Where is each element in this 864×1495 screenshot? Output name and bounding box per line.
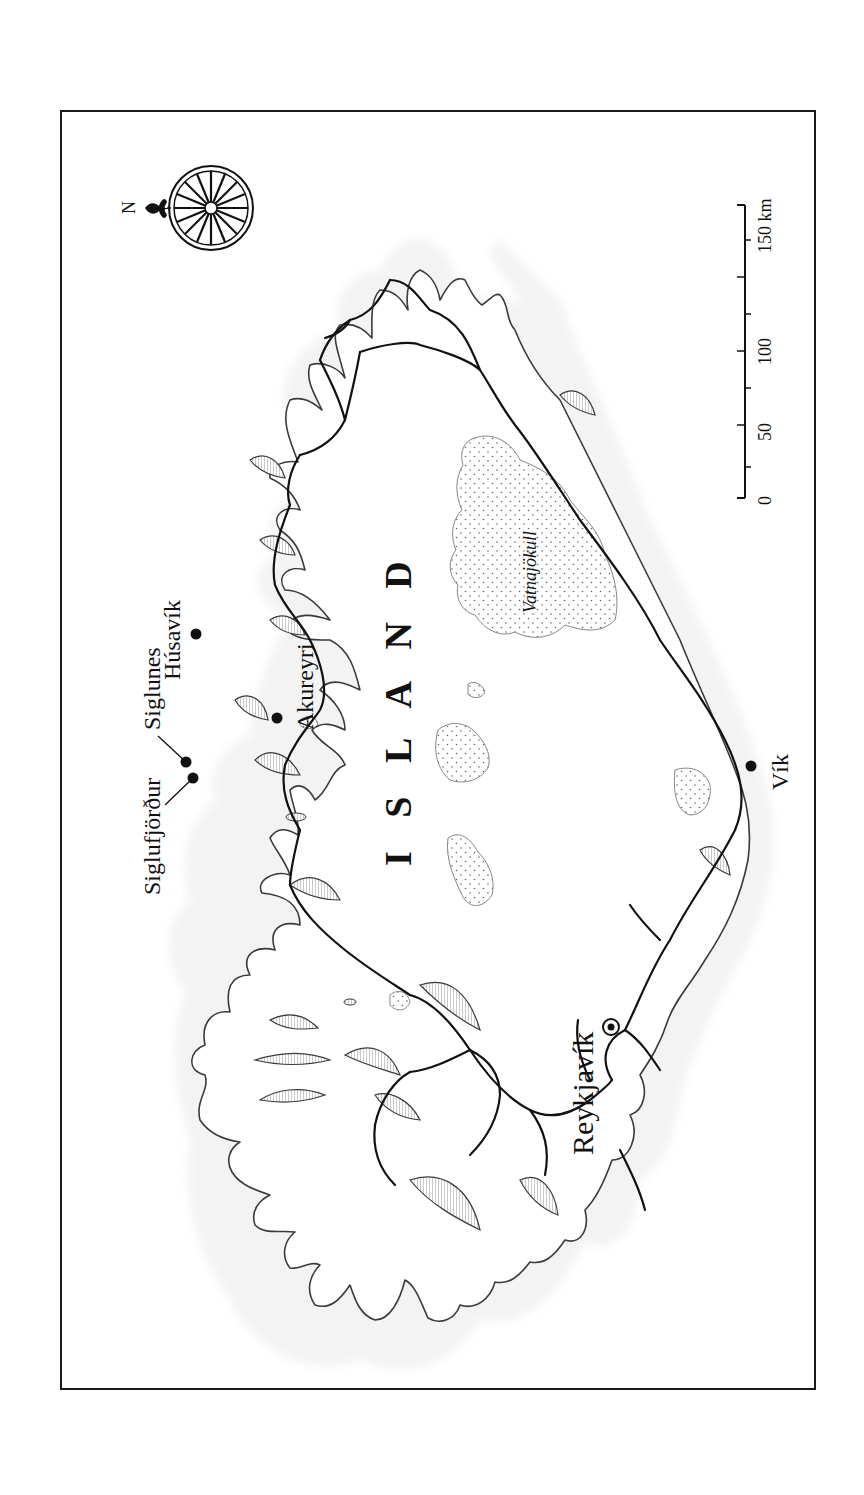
town-marker-akureyri[interactable] — [272, 713, 283, 724]
label-vik: Vík — [767, 754, 793, 790]
leader-line-siglunes — [158, 736, 186, 762]
country-title: I S L A N D — [377, 549, 419, 866]
town-marker-vik[interactable] — [746, 761, 757, 772]
scale-bar: 0 50 100 150 km — [737, 198, 775, 505]
label-vatnajokull: Vatnajökull — [520, 531, 540, 613]
leader-line-siglufjordur — [165, 778, 193, 805]
scale-tick-0: 0 — [755, 496, 775, 505]
compass-rose-icon: N — [119, 166, 253, 250]
capital-marker-reykjavik[interactable] — [603, 1019, 619, 1035]
label-akureyri: Akureyri — [292, 643, 318, 730]
scale-tick-150km: 150 km — [755, 198, 775, 253]
label-siglufjordur: Siglufjörður — [139, 778, 165, 895]
fleur-de-lis-icon — [145, 199, 171, 218]
label-husavik: Húsavík — [159, 600, 185, 680]
scale-tick-50: 50 — [755, 423, 775, 441]
compass-north-label: N — [119, 201, 139, 214]
iceland-map: Siglufjörður Siglunes Húsavík Akureyri V… — [0, 0, 864, 1495]
label-reykjavik: Reykjavík — [566, 1032, 599, 1155]
scale-tick-100: 100 — [755, 338, 775, 365]
town-marker-husavik[interactable] — [191, 629, 202, 640]
